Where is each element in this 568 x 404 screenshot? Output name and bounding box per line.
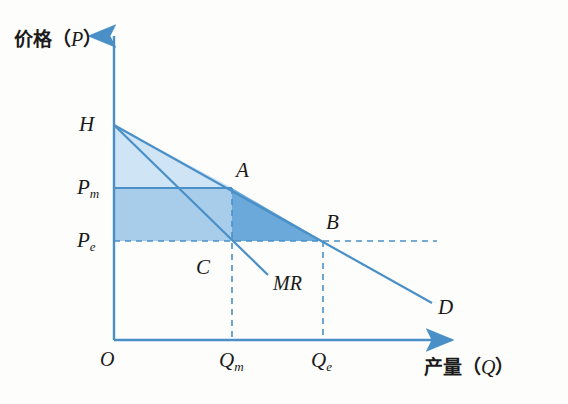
quantity-axis-label: 产量（Q） bbox=[424, 352, 514, 379]
price-axis-label-cjk: 价格 bbox=[14, 28, 52, 50]
qm-symbol: Q bbox=[219, 348, 234, 372]
point-label-c: C bbox=[196, 255, 210, 280]
figure-canvas: 价格（P） 产量（Q） O H Pm Pe Qm Qe A B C MR D bbox=[0, 0, 568, 404]
y-tick-label-pm: Pm bbox=[77, 175, 99, 202]
curve-label-d: D bbox=[438, 295, 453, 320]
y-tick-label-pe: Pe bbox=[77, 228, 96, 255]
x-tick-label-qe: Qe bbox=[311, 348, 332, 375]
deadweight-loss-region bbox=[232, 188, 323, 241]
qe-subscript: e bbox=[326, 359, 332, 374]
point-label-b: B bbox=[326, 210, 339, 235]
point-label-a: A bbox=[236, 158, 249, 183]
monopoly-profit-region bbox=[114, 188, 232, 241]
quantity-axis-paren-open: （ bbox=[462, 356, 481, 378]
curve-label-mr: MR bbox=[273, 272, 302, 295]
origin-label: O bbox=[100, 348, 114, 371]
pe-subscript: e bbox=[90, 239, 96, 254]
qm-subscript: m bbox=[234, 359, 243, 374]
price-axis-paren-open: （ bbox=[52, 28, 71, 50]
diagram-svg bbox=[0, 0, 568, 404]
quantity-axis-symbol: Q bbox=[481, 356, 495, 378]
price-axis-symbol: P bbox=[71, 28, 83, 50]
quantity-axis-label-cjk: 产量 bbox=[424, 356, 462, 378]
price-axis-label: 价格（P） bbox=[14, 24, 102, 51]
pe-symbol: P bbox=[77, 228, 90, 252]
qe-symbol: Q bbox=[311, 348, 326, 372]
x-tick-label-qm: Qm bbox=[219, 348, 244, 375]
pm-subscript: m bbox=[90, 186, 99, 201]
y-tick-label-h: H bbox=[79, 112, 94, 137]
price-axis-paren-close: ） bbox=[83, 28, 102, 50]
pm-symbol: P bbox=[77, 175, 90, 199]
quantity-axis-paren-close: ） bbox=[495, 356, 514, 378]
